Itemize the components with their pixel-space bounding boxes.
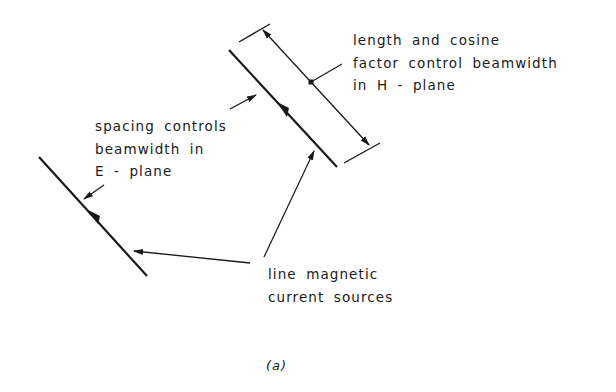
h-plane-annotation-line-2: factor control beamwidth bbox=[353, 52, 558, 75]
right-line-source bbox=[229, 50, 337, 167]
spacing-arrow-right bbox=[230, 95, 256, 109]
source-leader-left bbox=[134, 251, 250, 263]
source-leader-right bbox=[264, 151, 314, 257]
e-plane-annotation-line-3: E - plane bbox=[95, 160, 227, 183]
figure-caption: (a) bbox=[266, 358, 287, 373]
e-plane-annotation-line-2: beamwidth in bbox=[95, 138, 227, 161]
sources-annotation: line magnetic current sources bbox=[268, 263, 393, 308]
sources-annotation-line-1: line magnetic bbox=[268, 263, 393, 286]
h-plane-annotation-line-1: length and cosine bbox=[353, 29, 558, 52]
spacing-arrow-left bbox=[84, 185, 104, 199]
left-current-arrow-icon bbox=[88, 210, 100, 224]
h-plane-annotation-line-3: in H - plane bbox=[353, 74, 558, 97]
right-current-arrow-icon bbox=[277, 102, 289, 117]
e-plane-annotation: spacing controls beamwidth in E - plane bbox=[95, 115, 227, 183]
sources-annotation-line-2: current sources bbox=[268, 286, 393, 309]
extension-line-bottom bbox=[344, 143, 380, 163]
h-plane-annotation: length and cosine factor control beamwid… bbox=[353, 29, 558, 97]
h-plane-leader-line bbox=[311, 64, 342, 82]
e-plane-annotation-line-1: spacing controls bbox=[95, 115, 227, 138]
